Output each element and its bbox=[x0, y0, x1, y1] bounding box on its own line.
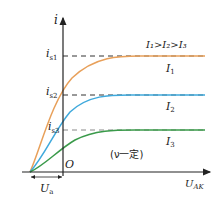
is3-label: is3 bbox=[48, 120, 60, 135]
series-label-i1: I1 bbox=[165, 62, 175, 76]
frequency-constant-annotation: (ν一定) bbox=[110, 148, 143, 160]
is1-label: is1 bbox=[46, 47, 58, 62]
series-label-i2: I2 bbox=[165, 100, 175, 114]
intensity-order-annotation: I₁>I₂>I₃ bbox=[145, 39, 187, 50]
series-label-i3: I3 bbox=[165, 135, 175, 149]
x-axis-label: UAK bbox=[185, 178, 204, 191]
is2-label: is2 bbox=[46, 85, 58, 100]
origin-label: O bbox=[65, 158, 74, 171]
photoelectric-iv-chart: i O UAK is1 is2 is3 Ua I₁>I₂>I₃ I1 I2 I3… bbox=[0, 0, 221, 208]
y-axis-label: i bbox=[54, 13, 58, 27]
stopping-voltage-label: Ua bbox=[40, 182, 53, 196]
